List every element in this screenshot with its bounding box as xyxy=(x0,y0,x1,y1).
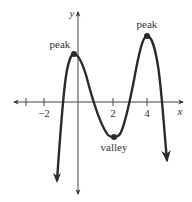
tick-label-2: 2 xyxy=(110,107,116,119)
peak-right-point xyxy=(144,33,150,39)
x-axis-label: x xyxy=(177,105,183,117)
valley-point xyxy=(111,134,117,140)
peak-left-label: peak xyxy=(50,38,71,50)
tick-label-neg2: −2 xyxy=(38,107,50,119)
peak-left-point xyxy=(71,51,77,57)
peak-right-label: peak xyxy=(137,18,158,30)
y-axis-label: y xyxy=(69,7,75,19)
valley-label: valley xyxy=(101,141,128,153)
tick-label-4: 4 xyxy=(144,107,150,119)
function-graph: −2 2 4 x y peak peak valley xyxy=(0,0,192,202)
